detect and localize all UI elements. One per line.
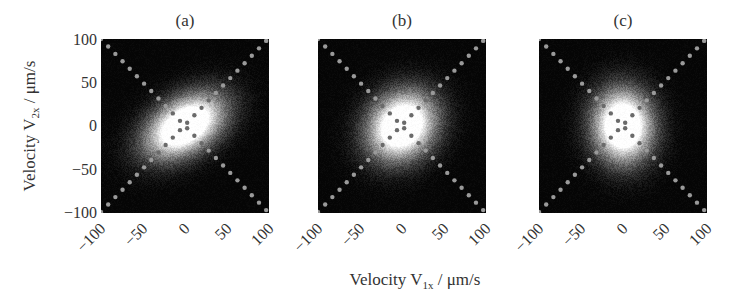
panel-b-title: (b) <box>372 11 432 31</box>
panel-c-heatmap <box>539 39 707 213</box>
y-tick-minus-100: −100 <box>47 205 97 221</box>
panel-b-heatmap <box>318 39 486 213</box>
panel-a-x-tick-50: 50 <box>192 220 234 262</box>
panel-c-x-tick-50: 50 <box>630 220 672 262</box>
panel-b-x-tick-0: 0 <box>367 220 409 262</box>
panel-a-x-tick-minus-50: −50 <box>108 220 150 262</box>
panel-c-x-tick-minus-50: −50 <box>546 220 588 262</box>
panel-b-x-tick-50: 50 <box>409 220 451 262</box>
x-axis-label: Velocity V1x / μm/s <box>350 270 481 291</box>
panel-c-title: (c) <box>593 11 653 31</box>
y-tick-minus-50: −50 <box>47 162 97 178</box>
panel-a-x-tick-100: 100 <box>234 220 276 262</box>
y-tick-0: 0 <box>47 118 97 134</box>
y-tick-100: 100 <box>47 32 97 48</box>
panel-c-x-tick-minus-100: −100 <box>504 220 546 262</box>
panel-b-x-tick-minus-100: −100 <box>283 220 325 262</box>
panel-b-x-tick-100: 100 <box>451 220 493 262</box>
panel-a-x-tick-0: 0 <box>150 220 192 262</box>
panel-c-x-tick-100: 100 <box>672 220 714 262</box>
panel-a-title: (a) <box>155 11 215 31</box>
y-axis-label: Velocity V2x / μm/s <box>20 61 41 192</box>
panel-b-x-tick-minus-50: −50 <box>325 220 367 262</box>
y-tick-50: 50 <box>47 75 97 91</box>
panel-c-x-tick-0: 0 <box>588 220 630 262</box>
velocity-correlation-figure: Velocity V2x / μm/s 100 50 0 −50 −100 (a… <box>0 0 735 303</box>
panel-a-x-tick-minus-100: −100 <box>66 220 108 262</box>
panel-a-heatmap <box>101 39 269 213</box>
